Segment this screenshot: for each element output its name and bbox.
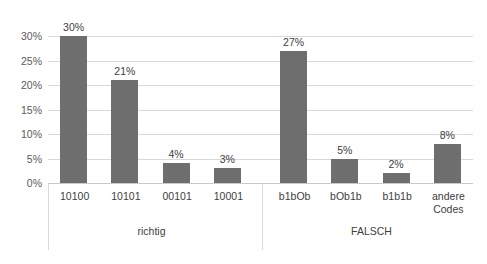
group-label: richtig: [137, 226, 165, 237]
bar-value-label: 3%: [220, 154, 235, 165]
category-tick-label: b1bOb: [279, 190, 311, 203]
bar-value-label: 5%: [337, 145, 352, 156]
y-axis-tick-label: 20%: [0, 80, 42, 91]
y-axis-tick-label: 30%: [0, 31, 42, 42]
group-label: FALSCH: [351, 226, 392, 237]
category-tick-label: b1b1b: [383, 190, 412, 203]
category-tick-label: 00101: [163, 190, 192, 203]
category-tick-label: 10001: [214, 190, 243, 203]
bar-value-label: 30%: [63, 22, 84, 33]
bar-chart: 0%5%10%15%20%25%30% 30%21%4%3%27%5%2%8% …: [0, 0, 487, 264]
y-axis-tick-label: 15%: [0, 104, 42, 115]
bar-value-label: 8%: [440, 130, 455, 141]
y-axis-tick-label: 10%: [0, 129, 42, 140]
gridline: [48, 61, 473, 62]
bar: [331, 159, 358, 184]
y-axis: 0%5%10%15%20%25%30%: [0, 0, 42, 264]
category-tick-label: 10101: [111, 190, 140, 203]
bar: [214, 168, 241, 183]
bar-value-label: 21%: [114, 66, 135, 77]
bar: [111, 80, 138, 183]
group-separator: [262, 184, 263, 250]
y-axis-tick-label: 25%: [0, 55, 42, 66]
bar-value-label: 2%: [389, 159, 404, 170]
bar: [383, 173, 410, 183]
gridline: [48, 36, 473, 37]
bar: [434, 144, 461, 183]
bar-value-label: 4%: [169, 149, 184, 160]
bar-value-label: 27%: [283, 37, 304, 48]
y-axis-tick-label: 5%: [0, 153, 42, 164]
category-tick-label: andereCodes: [432, 190, 465, 216]
bar: [60, 36, 87, 183]
category-axis: 10100101010010110001b1bObbOb1bb1b1bander…: [48, 184, 474, 250]
category-tick-label: bOb1b: [330, 190, 362, 203]
plot-area: 30%21%4%3%27%5%2%8%: [48, 36, 473, 183]
bar: [163, 163, 190, 183]
y-axis-tick-label: 0%: [0, 178, 42, 189]
bar: [280, 51, 307, 183]
category-tick-label: 10100: [60, 190, 89, 203]
